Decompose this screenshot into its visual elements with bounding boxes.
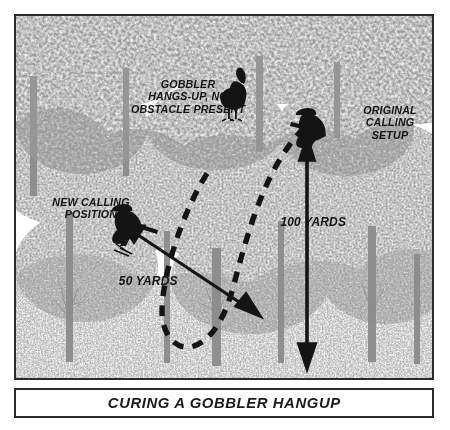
caption-title: CURING A GOBBLER HANGUP (108, 394, 341, 412)
label-distance-100-yards: 100 YARDS (280, 215, 381, 229)
label-gobbler-hangs-up: GOBBLER HANGS-UP, NO OBSTACLE PRESENT (109, 78, 267, 115)
label-distance-50-yards: 50 YARDS (119, 274, 229, 288)
label-new-calling-position: NEW CALLING POSITION (37, 196, 146, 221)
curing-a-gobbler-hangup-figure: GOBBLER HANGS-UP, NO OBSTACLE PRESENT OR… (0, 0, 450, 430)
illustration-frame: GOBBLER HANGS-UP, NO OBSTACLE PRESENT OR… (14, 14, 434, 380)
label-original-calling-setup: ORIGINAL CALLING SETUP (342, 104, 434, 141)
caption-plate: CURING A GOBBLER HANGUP (14, 388, 434, 418)
